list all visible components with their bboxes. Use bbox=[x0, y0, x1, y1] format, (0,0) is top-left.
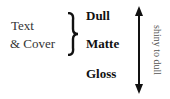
double-headed-vertical-arrow-icon bbox=[134, 6, 144, 94]
right-curly-brace-icon bbox=[66, 12, 80, 56]
label-cover: & Cover bbox=[10, 37, 55, 50]
finish-dull: Dull bbox=[86, 9, 110, 22]
finish-gloss: Gloss bbox=[86, 67, 116, 80]
label-text: Text bbox=[11, 19, 34, 32]
finish-matte: Matte bbox=[86, 37, 119, 50]
axis-label: shiny to dull bbox=[150, 20, 164, 80]
